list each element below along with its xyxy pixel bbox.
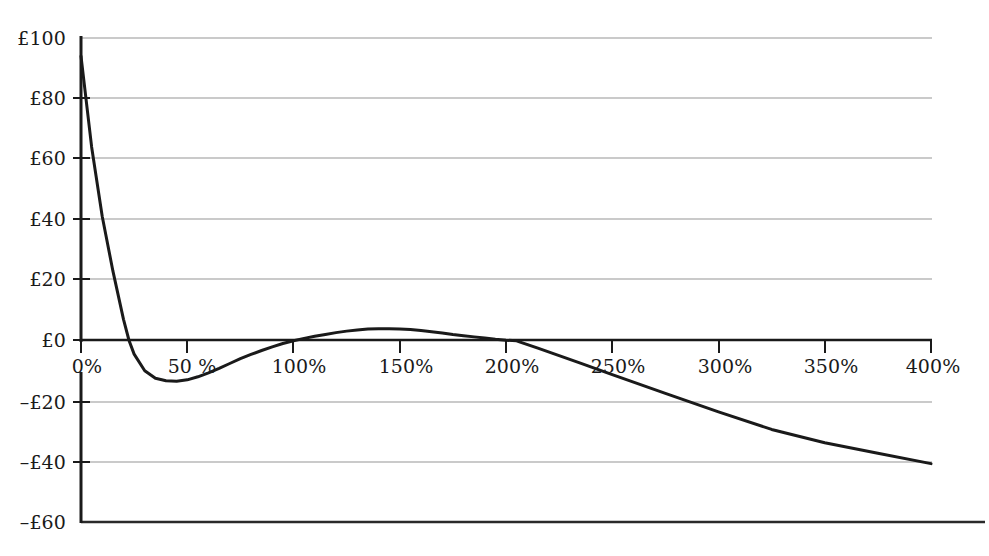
y-tick-label-minus-20: –£20 bbox=[0, 393, 66, 412]
npv-profile-chart: £100 £80 £60 £40 £20 £0 –£20 –£40 –£60 0… bbox=[0, 0, 989, 556]
x-tick-label-300: 300% bbox=[698, 357, 753, 376]
x-axis-ticks bbox=[81, 340, 931, 353]
y-tick-label-0: £0 bbox=[0, 331, 66, 350]
y-tick-label-60: £60 bbox=[0, 149, 66, 168]
x-tick-label-150: 150% bbox=[379, 357, 434, 376]
x-tick-label-400: 400% bbox=[906, 357, 961, 376]
y-tick-label-20: £20 bbox=[0, 270, 66, 289]
x-tick-label-0: 0% bbox=[72, 357, 102, 376]
chart-plot-area bbox=[0, 0, 989, 556]
x-tick-label-100: 100% bbox=[272, 357, 327, 376]
y-tick-label-100: £100 bbox=[0, 29, 66, 48]
gridlines bbox=[81, 38, 932, 462]
x-tick-label-50: 50 % bbox=[168, 357, 217, 376]
x-tick-label-200: 200% bbox=[485, 357, 540, 376]
y-tick-label-minus-60: –£60 bbox=[0, 513, 66, 532]
y-tick-label-80: £80 bbox=[0, 89, 66, 108]
x-tick-label-250: 250% bbox=[591, 357, 646, 376]
x-tick-label-350: 350% bbox=[804, 357, 859, 376]
y-tick-label-minus-40: –£40 bbox=[0, 453, 66, 472]
y-tick-label-40: £40 bbox=[0, 210, 66, 229]
